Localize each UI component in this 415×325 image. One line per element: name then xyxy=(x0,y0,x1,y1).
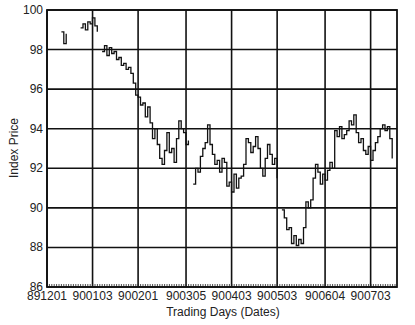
plot-frame xyxy=(47,10,397,287)
x-tick-label: 900103 xyxy=(73,289,113,303)
y-tick-label: 94 xyxy=(30,122,44,136)
chart-axes xyxy=(47,10,397,287)
y-axis-title: Index Price xyxy=(7,118,21,178)
x-tick-label: 900503 xyxy=(257,289,297,303)
price-line xyxy=(61,32,66,44)
price-line xyxy=(282,115,392,246)
y-tick-label: 96 xyxy=(30,82,44,96)
y-tick-label: 92 xyxy=(30,161,44,175)
x-tick-label: 900305 xyxy=(166,289,206,303)
y-tick-label: 88 xyxy=(30,240,44,254)
price-line xyxy=(193,125,277,192)
x-tick-label: 891201 xyxy=(27,289,67,303)
price-line xyxy=(102,46,188,165)
x-tick-label: 900604 xyxy=(305,289,345,303)
y-tick-label: 90 xyxy=(30,201,44,215)
x-tick-label: 900403 xyxy=(212,289,252,303)
x-tick-label: 900201 xyxy=(118,289,158,303)
x-axis-title: Trading Days (Dates) xyxy=(166,305,280,319)
tick-labels: 8688909294969810089120190010390020190030… xyxy=(23,3,391,303)
x-tick-label: 900703 xyxy=(351,289,391,303)
chart-grid xyxy=(47,10,397,287)
price-line xyxy=(81,18,98,32)
y-tick-label: 98 xyxy=(30,43,44,57)
line-chart: 8688909294969810089120190010390020190030… xyxy=(0,0,415,325)
y-tick-label: 100 xyxy=(23,3,43,17)
data-series xyxy=(47,18,392,246)
